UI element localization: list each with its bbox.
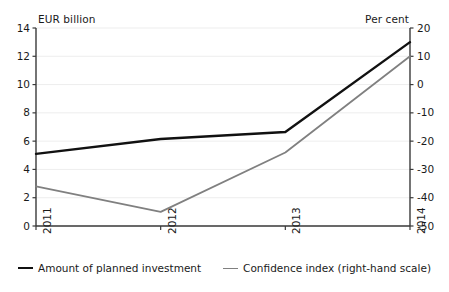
right-tick-label: 20 bbox=[417, 23, 443, 34]
left-tick-label: 12 bbox=[8, 51, 30, 62]
left-tick-label: 6 bbox=[8, 136, 30, 147]
left-tick-label: 2 bbox=[8, 192, 30, 203]
x-tick-label: 2013 bbox=[290, 207, 302, 234]
plot-area bbox=[0, 0, 449, 292]
left-tick-label: 4 bbox=[8, 164, 30, 175]
series-line-investment bbox=[36, 42, 410, 154]
x-tick-label: 2011 bbox=[41, 207, 53, 234]
x-tick-label: 2012 bbox=[166, 207, 178, 234]
left-tick-label: 14 bbox=[8, 23, 30, 34]
left-tick-label: 0 bbox=[8, 221, 30, 232]
line-chart: EUR billion Per cent 14121086420 20100-1… bbox=[0, 0, 449, 292]
legend-label-investment: Amount of planned investment bbox=[38, 262, 201, 274]
left-tick-label: 10 bbox=[8, 79, 30, 90]
right-tick-label: -20 bbox=[417, 136, 443, 147]
right-tick-label: 0 bbox=[417, 79, 443, 90]
right-tick-label: 10 bbox=[417, 51, 443, 62]
right-tick-label: -10 bbox=[417, 107, 443, 118]
legend-label-confidence: Confidence index (right-hand scale) bbox=[243, 262, 431, 274]
legend-item-investment: Amount of planned investment bbox=[18, 262, 201, 274]
legend-item-confidence: Confidence index (right-hand scale) bbox=[223, 262, 431, 274]
legend-swatch-confidence bbox=[223, 268, 238, 269]
series-line-confidence bbox=[36, 56, 410, 212]
right-tick-label: -30 bbox=[417, 164, 443, 175]
right-tick-label: -40 bbox=[417, 192, 443, 203]
chart-legend: Amount of planned investment Confidence … bbox=[0, 262, 449, 274]
left-tick-label: 8 bbox=[8, 107, 30, 118]
legend-swatch-investment bbox=[18, 267, 33, 269]
x-tick-label: 2014 bbox=[415, 207, 427, 234]
